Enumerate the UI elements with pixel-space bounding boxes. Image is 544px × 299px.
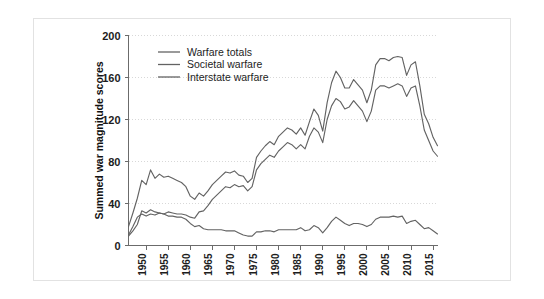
legend-label-0: Warfare totals <box>187 46 252 58</box>
x-tick-label-1975: 1975 <box>248 253 259 276</box>
y-tick-label-200: 200 <box>102 30 120 42</box>
x-tick-label-2015: 2015 <box>424 253 435 276</box>
x-tick-label-1985: 1985 <box>292 253 303 276</box>
x-tick-label-1995: 1995 <box>336 253 347 276</box>
legend-label-2: Interstate warfare <box>187 71 269 83</box>
x-tick-label-1970: 1970 <box>225 253 236 276</box>
y-axis-title: Summed war magnitude scores <box>93 61 105 219</box>
y-tick-label-0: 0 <box>114 240 120 252</box>
figure-root: 04080120160200 1950195519601965197019751… <box>0 0 544 299</box>
x-axis-tick-labels: 1950195519601965197019751980198519901995… <box>137 253 435 276</box>
x-tick-label-1960: 1960 <box>181 253 192 276</box>
series-line-societal-warfare <box>129 84 438 235</box>
x-tick-label-1965: 1965 <box>203 253 214 276</box>
x-tick-label-1950: 1950 <box>137 253 148 276</box>
y-axis-title-text: Summed war magnitude scores <box>93 61 105 219</box>
x-tick-label-1990: 1990 <box>314 253 325 276</box>
chart-legend: Warfare totalsSocietal warfareInterstate… <box>158 46 269 83</box>
chart-canvas: 04080120160200 1950195519601965197019751… <box>0 0 544 299</box>
x-tick-label-2000: 2000 <box>358 253 369 276</box>
series-line-warfare-totals <box>129 57 438 227</box>
line-chart: 04080120160200 1950195519601965197019751… <box>0 0 544 299</box>
data-series <box>129 57 438 237</box>
x-tick-label-1980: 1980 <box>270 253 281 276</box>
legend-label-1: Societal warfare <box>187 58 262 70</box>
y-tick-label-40: 40 <box>108 198 120 210</box>
x-tick-label-2005: 2005 <box>380 253 391 276</box>
y-tick-label-80: 80 <box>108 156 120 168</box>
gridlines <box>129 36 438 204</box>
x-tick-label-1955: 1955 <box>159 253 170 276</box>
x-tick-label-2010: 2010 <box>402 253 413 276</box>
